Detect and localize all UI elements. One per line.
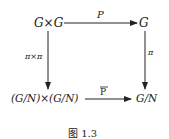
node-quotient-product: (G/N)×(G/N) [11,93,78,104]
label-p: P [97,10,104,20]
label-pi: π [148,49,153,57]
node-g-over-n: G/N [136,93,157,104]
node-g: G [139,17,149,29]
node-g-times-g: G×G [34,17,63,29]
label-p-bar: P [100,88,106,97]
label-pi-times-pi: π×π [25,53,42,61]
figure-caption: 图 1.3 [68,125,97,139]
